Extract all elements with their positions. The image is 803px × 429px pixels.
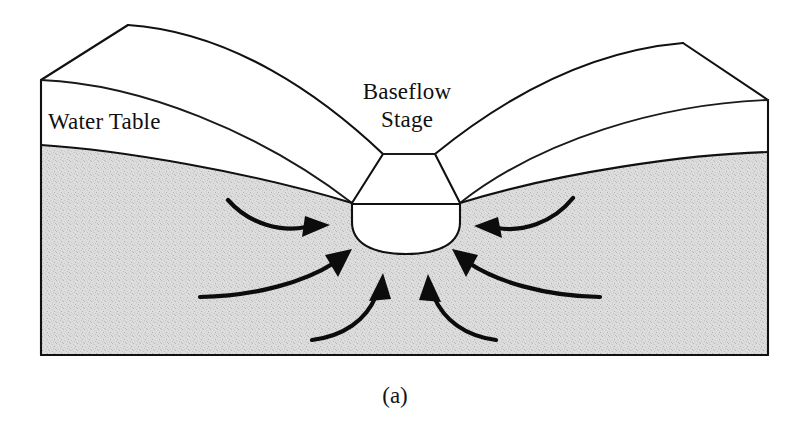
baseflow-stage-label-line1: Baseflow <box>363 79 452 104</box>
water-table-label: Water Table <box>48 109 161 134</box>
baseflow-cross-section-diagram: Water Table Baseflow Stage (a) <box>0 0 803 429</box>
baseflow-stage-label-line2: Stage <box>381 107 433 132</box>
figure-caption: (a) <box>382 383 408 408</box>
figure-root: Water Table Baseflow Stage (a) <box>0 0 803 429</box>
